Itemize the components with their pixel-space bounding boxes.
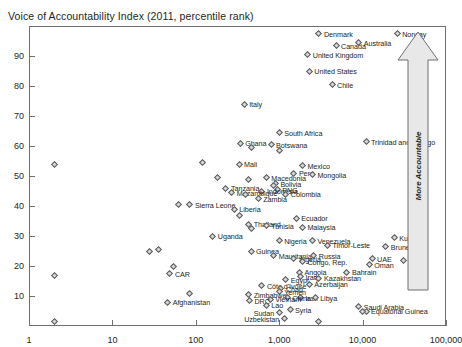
y-tick-label: 20 [14, 261, 24, 271]
data-point-label: Liberia [239, 205, 260, 214]
data-point-marker [51, 318, 58, 325]
data-point-marker [287, 306, 294, 313]
data-point-label: Nigeria [284, 236, 306, 245]
y-tick-mark [29, 116, 35, 117]
data-point-marker [309, 237, 316, 244]
data-point-label: Italy [249, 100, 262, 109]
data-point-marker [328, 81, 335, 88]
plot-frame-border [29, 26, 446, 326]
data-point-marker [281, 315, 288, 322]
y-tick-mark [29, 296, 35, 297]
data-point-label: Equatorial Guinea [371, 307, 428, 316]
y-tick-label: 50 [14, 171, 24, 181]
data-point-label: Afghanistan [173, 298, 210, 307]
y-tick-mark [29, 266, 35, 267]
x-tick-mark [363, 320, 364, 326]
data-point-marker [237, 139, 244, 146]
x-tick-mark [446, 320, 447, 326]
data-point-label: Timor-Leste [333, 241, 371, 250]
x-tick-mark [29, 320, 30, 326]
y-tick-label: 60 [14, 141, 24, 151]
y-tick-label: 70 [14, 111, 24, 121]
data-point-marker [214, 174, 221, 181]
x-tick-mark [279, 320, 280, 326]
x-tick-label: 100,000 [430, 335, 462, 345]
data-point-marker [299, 223, 306, 230]
data-point-label: Malaysia [307, 223, 335, 232]
data-point-label: Australia [364, 38, 392, 47]
data-point-marker [235, 160, 242, 167]
data-point-label: Uganda [218, 232, 243, 241]
y-tick-mark [29, 206, 35, 207]
data-point-marker [258, 282, 265, 289]
data-point-marker [166, 270, 173, 277]
data-point-label: Denmark [324, 29, 353, 38]
data-point-marker [175, 201, 182, 208]
data-point-marker [146, 247, 153, 254]
data-point-marker [263, 174, 270, 181]
y-tick-mark [29, 86, 35, 87]
data-point-marker [315, 30, 322, 37]
x-tick-label: 10,000 [349, 335, 377, 345]
voice-accountability-scatter-chart: Voice of Accountability Index (2011, per… [0, 0, 462, 347]
more-accountable-arrow-label: More Accountable [414, 132, 423, 201]
data-point-label: Uzbekistan [244, 314, 279, 323]
data-point-marker [332, 42, 339, 49]
data-point-label: CAR [175, 269, 190, 278]
y-tick-mark [29, 56, 35, 57]
data-point-marker [248, 247, 255, 254]
data-point-label: United Kingdom [313, 50, 363, 59]
data-point-label: Libya [320, 293, 337, 302]
data-point-marker [186, 201, 193, 208]
y-tick-label: 90 [14, 51, 24, 61]
data-point-label: Canada [341, 41, 366, 50]
x-tick-label: 1 [26, 335, 31, 345]
data-point-marker [306, 67, 313, 74]
data-point-marker [164, 298, 171, 305]
data-point-marker [51, 271, 58, 278]
y-tick-label: 40 [14, 201, 24, 211]
data-point-marker [268, 141, 275, 148]
data-point-label: Chile [337, 80, 353, 89]
data-point-label: United States [314, 67, 357, 76]
chart-title: Voice of Accountability Index (2011, per… [8, 10, 254, 22]
data-point-label: Colombia [291, 190, 321, 199]
y-tick-label: 30 [14, 231, 24, 241]
y-tick-mark [29, 236, 35, 237]
x-tick-label: 10 [107, 335, 117, 345]
more-accountable-arrow: More Accountable [396, 30, 440, 292]
y-tick-mark [29, 146, 35, 147]
x-tick-mark [112, 320, 113, 326]
data-point-marker [382, 243, 389, 250]
data-point-marker [186, 289, 193, 296]
x-tick-label: 1,000 [268, 335, 291, 345]
data-point-label: Mali [244, 160, 257, 169]
x-tick-mark [196, 320, 197, 326]
data-point-label: Tunisia [271, 221, 294, 230]
data-point-label: Zambia [263, 194, 287, 203]
data-point-marker [209, 232, 216, 239]
y-tick-label: 10 [14, 291, 24, 301]
x-tick-label: 100 [188, 335, 203, 345]
data-point-marker [304, 51, 311, 58]
data-point-label: Ecuador [301, 214, 327, 223]
data-point-label: Syria [295, 305, 311, 314]
data-point-marker [241, 100, 248, 107]
data-point-label: Azerbaijan [314, 280, 347, 289]
data-point-marker [245, 175, 252, 182]
data-point-marker [199, 159, 206, 166]
data-point-marker [155, 246, 162, 253]
data-point-marker [363, 138, 370, 145]
y-tick-mark [29, 176, 35, 177]
plot-area: 102030405060708090 1101001,00010,000100,… [29, 26, 446, 326]
data-point-label: Congo, Rep. [307, 257, 347, 266]
y-tick-label: 80 [14, 81, 24, 91]
data-point-marker [51, 160, 58, 167]
data-point-marker [276, 237, 283, 244]
data-point-marker [246, 297, 253, 304]
data-point-label: Sierra Leone [195, 200, 236, 209]
data-point-label: Oman [374, 260, 393, 269]
data-point-label: Mongolia [317, 170, 346, 179]
data-point-marker [276, 129, 283, 136]
data-point-label: South Africa [284, 128, 322, 137]
